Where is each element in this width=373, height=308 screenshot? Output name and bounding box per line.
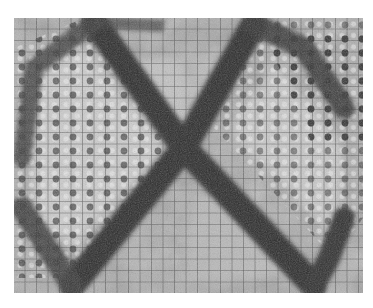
halftone-grain bbox=[14, 18, 363, 293]
micrograph-image bbox=[14, 18, 363, 293]
micrograph-svg bbox=[14, 18, 363, 293]
